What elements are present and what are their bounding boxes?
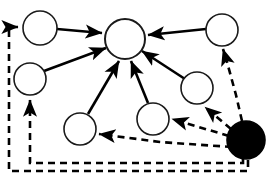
edge-n2-to-hub (44, 48, 106, 71)
edge-n7-to-n6 (223, 49, 242, 121)
edge-n1-to-hub (57, 29, 102, 33)
graph-svg (0, 0, 268, 177)
node-n5[interactable] (181, 72, 213, 104)
node-n4[interactable] (137, 103, 169, 135)
node-n1[interactable] (23, 11, 57, 45)
node-n3[interactable] (64, 113, 96, 145)
edge-n3-to-hub (88, 61, 119, 114)
node-n7-filled[interactable] (227, 121, 265, 159)
edge-n5-to-hub (142, 51, 185, 79)
diagram-canvas (0, 0, 268, 177)
edge-n7-to-n3 (99, 134, 232, 147)
edge-n6-to-hub (148, 29, 206, 35)
node-hub-hatched[interactable] (105, 19, 145, 59)
edge-n7-to-n5 (205, 107, 231, 129)
edge-n4-to-hub (131, 61, 148, 103)
node-n2[interactable] (14, 63, 46, 95)
node-n6[interactable] (206, 14, 238, 46)
